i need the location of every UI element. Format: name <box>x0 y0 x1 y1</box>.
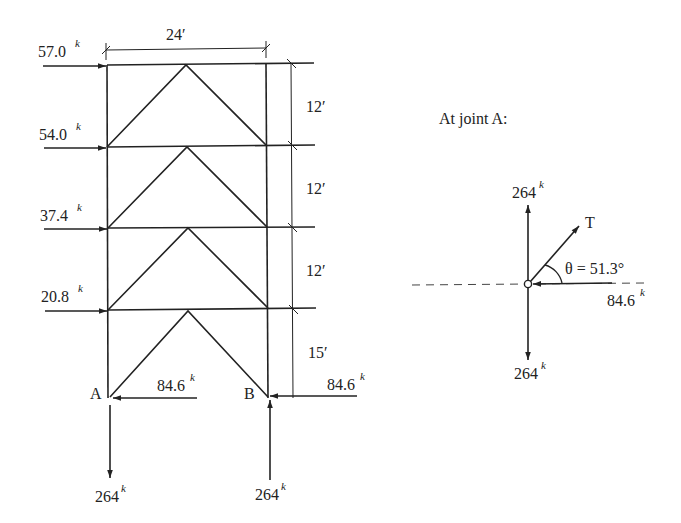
support-a-vertical-label: 264k <box>95 482 127 505</box>
load-label-4: 20.8k <box>41 282 84 305</box>
width-dimension-label: 24′ <box>166 26 186 43</box>
story-height-label: 12′ <box>306 98 326 115</box>
svg-text:k: k <box>539 178 545 190</box>
support-b-vertical-label: 264k <box>255 480 287 503</box>
support-b-horizontal-label: 84.6k <box>327 370 366 393</box>
joint-horizontal-force-label: 84.6k <box>607 286 646 309</box>
support-label-b: B <box>244 385 255 402</box>
svg-text:k: k <box>190 371 196 383</box>
svg-text:84.6: 84.6 <box>607 292 635 309</box>
joint-down-force-label: 264k <box>514 359 547 382</box>
support-label-a: A <box>90 385 102 402</box>
svg-text:264: 264 <box>95 488 119 505</box>
story-height-label: 12′ <box>306 180 326 197</box>
frame-members <box>107 63 316 398</box>
svg-text:57.0: 57.0 <box>38 43 66 60</box>
joint-a-node <box>524 280 531 287</box>
svg-text:264: 264 <box>514 365 538 382</box>
svg-text:k: k <box>76 120 82 132</box>
svg-text:84.6: 84.6 <box>157 377 185 394</box>
svg-text:k: k <box>281 480 287 492</box>
truss-frame-diagram: 24′ 12′ 12′ 12′ 15′ 57.0k 54.0k 37.4k 20… <box>0 0 681 523</box>
support-a-horizontal-label: 84.6k <box>157 371 196 394</box>
svg-text:k: k <box>121 482 127 494</box>
svg-text:k: k <box>75 37 81 49</box>
svg-text:20.8: 20.8 <box>41 288 69 305</box>
joint-diagram-title: At joint A: <box>439 110 507 128</box>
svg-text:k: k <box>78 282 84 294</box>
joint-force-arrows <box>528 205 612 360</box>
story-height-label: 12′ <box>306 262 326 279</box>
svg-text:84.6: 84.6 <box>327 376 355 393</box>
svg-text:37.4: 37.4 <box>40 207 68 224</box>
load-label-2: 54.0k <box>39 120 82 143</box>
svg-text:54.0: 54.0 <box>39 126 67 143</box>
load-label-1: 57.0k <box>38 37 81 60</box>
angle-arc <box>545 265 562 283</box>
support-reaction-arrows <box>110 396 357 480</box>
svg-text:k: k <box>360 370 366 382</box>
dimension-lines <box>102 41 298 398</box>
story-height-label: 15′ <box>308 344 328 361</box>
load-label-3: 37.4k <box>40 201 83 224</box>
tension-label: T <box>585 214 595 231</box>
svg-text:k: k <box>640 286 646 298</box>
svg-text:264: 264 <box>255 486 279 503</box>
svg-text:k: k <box>77 201 83 213</box>
angle-label: θ = 51.3° <box>565 260 624 277</box>
svg-text:264: 264 <box>512 184 536 201</box>
lateral-load-arrows <box>43 66 107 311</box>
svg-text:k: k <box>541 359 547 371</box>
joint-up-force-label: 264k <box>512 178 545 201</box>
